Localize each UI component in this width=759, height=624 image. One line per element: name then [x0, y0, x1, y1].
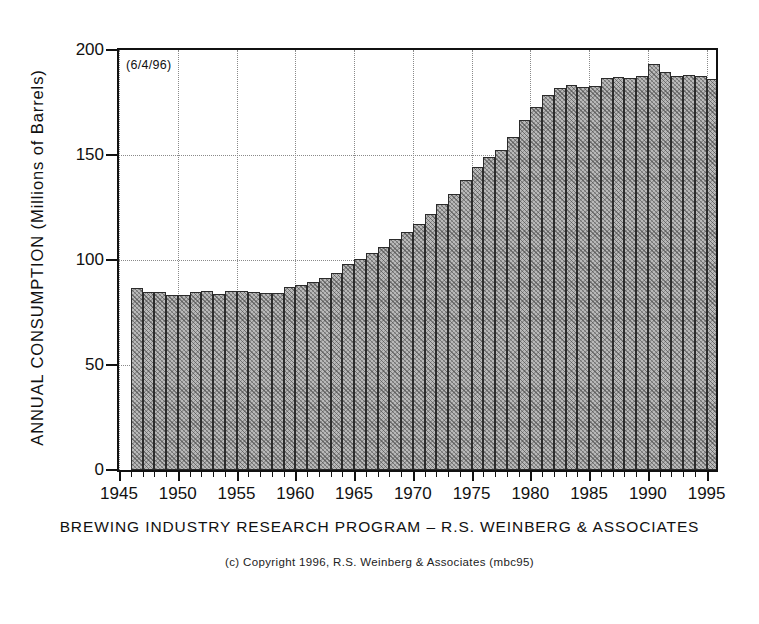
y-axis-tick-label: 150: [76, 145, 104, 165]
x-axis-tick-label: 1960: [276, 484, 314, 504]
bar: [389, 239, 401, 470]
bar: [483, 157, 495, 470]
bar: [519, 120, 531, 470]
bar: [272, 293, 284, 470]
x-axis-tick-minor: [131, 472, 132, 477]
x-axis-tick-major: [589, 472, 591, 481]
x-axis-tick-minor: [225, 472, 226, 477]
x-axis-tick-minor: [190, 472, 191, 477]
bar: [542, 95, 554, 470]
x-axis-tick-minor: [401, 472, 402, 477]
bar: [213, 294, 225, 470]
x-axis-tick-minor: [519, 472, 520, 477]
bar: [178, 295, 190, 470]
bar: [225, 291, 237, 470]
x-axis-tick-minor: [166, 472, 167, 477]
y-axis-tick-label: 200: [76, 40, 104, 60]
bar: [671, 76, 683, 470]
y-axis-tick-label: 100: [76, 250, 104, 270]
x-axis-tick-major: [530, 472, 532, 481]
x-axis-tick-major: [178, 472, 180, 481]
bar: [460, 180, 472, 470]
plot-inner: [119, 50, 716, 470]
x-axis-tick-minor: [213, 472, 214, 477]
bar: [331, 273, 343, 470]
x-axis-tick-minor: [389, 472, 390, 477]
x-axis-tick-minor: [284, 472, 285, 477]
y-axis-tick-mark: [106, 49, 117, 51]
bar: [425, 214, 437, 470]
x-axis-tick-minor: [695, 472, 696, 477]
bar: [248, 292, 260, 471]
bar: [495, 150, 507, 470]
x-axis-tick-minor: [366, 472, 367, 477]
x-axis-tick-minor: [425, 472, 426, 477]
bar: [436, 204, 448, 470]
y-axis-tick-label: 50: [85, 355, 104, 375]
bar: [648, 64, 660, 470]
bar: [613, 77, 625, 470]
bar-series: [119, 50, 716, 470]
bar: [342, 264, 354, 470]
x-axis-tick-minor: [248, 472, 249, 477]
bar: [601, 78, 613, 470]
x-axis-tick-minor: [577, 472, 578, 477]
x-axis-tick-major: [648, 472, 650, 481]
x-axis-tick-major: [354, 472, 356, 481]
y-axis-tick-mark: [106, 469, 117, 471]
bar: [695, 76, 707, 470]
bar: [166, 295, 178, 470]
bar: [319, 278, 331, 470]
bar: [307, 282, 319, 470]
bar: [190, 292, 202, 471]
x-axis-tick-label: 1965: [335, 484, 373, 504]
bar: [707, 79, 716, 470]
bar: [577, 87, 589, 470]
x-axis-tick-label: 1980: [511, 484, 549, 504]
x-axis-tick-minor: [601, 472, 602, 477]
y-axis-tick-mark: [106, 259, 117, 261]
date-stamp-annotation: (6/4/96): [126, 58, 171, 72]
x-axis-tick-minor: [460, 472, 461, 477]
x-axis-tick-minor: [307, 472, 308, 477]
x-axis-tick-minor: [683, 472, 684, 477]
y-axis-title: ANNUAL CONSUMPTION (Millions of Barrels): [28, 58, 47, 458]
bar: [143, 292, 155, 470]
bar: [472, 167, 484, 470]
bar: [413, 224, 425, 470]
x-axis-tick-minor: [378, 472, 379, 477]
bar: [284, 287, 296, 470]
x-axis-tick-label: 1945: [100, 484, 138, 504]
x-axis-tick-major: [472, 472, 474, 481]
x-axis-tick-minor: [201, 472, 202, 477]
bar: [683, 75, 695, 470]
bar: [554, 88, 566, 470]
x-axis-tick-major: [119, 472, 121, 481]
bar: [566, 85, 578, 470]
bar: [660, 72, 672, 470]
x-axis-tick-minor: [342, 472, 343, 477]
x-axis-tick-minor: [495, 472, 496, 477]
x-axis-tick-minor: [636, 472, 637, 477]
x-axis-tick-minor: [448, 472, 449, 477]
x-axis-tick-minor: [507, 472, 508, 477]
plot-area: [117, 48, 718, 472]
x-axis-tick-minor: [143, 472, 144, 477]
x-axis-tick-minor: [272, 472, 273, 477]
bar: [366, 253, 378, 470]
x-axis-tick-minor: [260, 472, 261, 477]
bar: [295, 285, 307, 470]
copyright-caption: (c) Copyright 1996, R.S. Weinberg & Asso…: [0, 556, 759, 568]
y-axis-tick-label: 0: [95, 460, 104, 480]
bar: [378, 247, 390, 470]
x-axis-tick-label: 1985: [570, 484, 608, 504]
chart-figure: ANNUAL CONSUMPTION (Millions of Barrels)…: [0, 0, 759, 624]
y-axis-tick-mark: [106, 154, 117, 156]
x-axis-tick-minor: [624, 472, 625, 477]
program-caption: BREWING INDUSTRY RESEARCH PROGRAM – R.S.…: [0, 518, 759, 536]
bar: [354, 259, 366, 470]
bar: [154, 292, 166, 470]
bar: [589, 86, 601, 470]
x-axis-tick-minor: [613, 472, 614, 477]
bar: [401, 232, 413, 470]
